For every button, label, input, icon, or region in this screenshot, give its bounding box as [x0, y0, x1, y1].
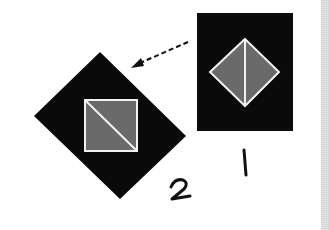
block-2: [34, 52, 186, 199]
page-edge-strip: [321, 0, 329, 230]
block-1: [197, 13, 293, 131]
arrow-dashed-line: [140, 42, 188, 63]
diagram-canvas: [0, 0, 329, 230]
rotation-arrow: [131, 42, 188, 68]
arrowhead-icon: [131, 58, 144, 68]
